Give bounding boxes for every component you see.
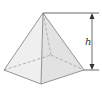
pyramid-diagram: h <box>0 0 102 94</box>
arrow-up-icon <box>90 13 95 19</box>
height-label: h <box>85 36 91 47</box>
arrow-down-icon <box>90 64 95 70</box>
pyramid-face-right <box>41 13 84 84</box>
pyramid-face-left <box>4 13 43 84</box>
